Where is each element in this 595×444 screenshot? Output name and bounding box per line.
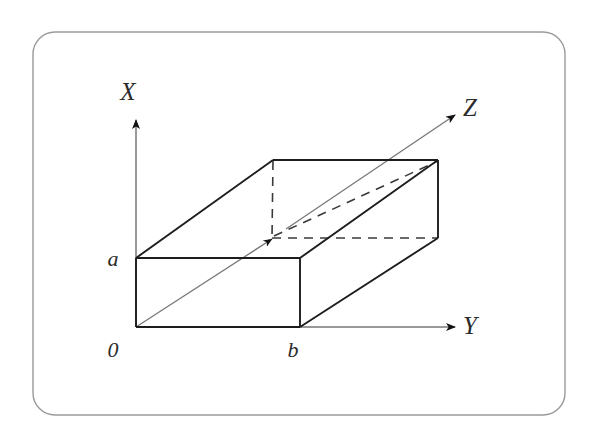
- x-axis-label: X: [119, 78, 137, 105]
- y-axis-label: Y: [463, 312, 480, 339]
- origin-label: 0: [108, 337, 119, 362]
- axis-lines: [136, 115, 455, 327]
- figure-canvas: X Y Z 0 a b: [0, 0, 595, 444]
- z-axis-outer-ray: [286, 115, 455, 229]
- z-axis-inner-segment: [136, 239, 272, 327]
- edge-bottom-right-receding: [300, 238, 438, 327]
- hidden-edge-back-bottom-left-to-front-top-right: [274, 161, 438, 236]
- box-diagram-svg: X Y Z 0 a b: [0, 0, 595, 444]
- box-hidden-edges: [272, 161, 438, 238]
- edge-top-right-receding: [300, 160, 438, 258]
- a-label: a: [108, 246, 119, 271]
- hidden-edge-back-top-left-to-back-bottom-left: [272, 161, 273, 238]
- box-visible-edges: [136, 160, 438, 327]
- edge-top-left-receding: [136, 160, 273, 258]
- z-axis-label: Z: [463, 94, 478, 121]
- b-label: b: [288, 337, 299, 362]
